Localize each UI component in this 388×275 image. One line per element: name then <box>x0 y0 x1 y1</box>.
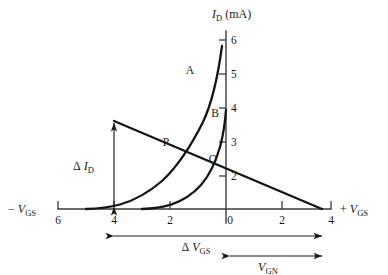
x-tick-labels: 6 4 2 0 2 4 <box>55 214 334 226</box>
x-axis-negative-label: −VGS <box>8 202 36 218</box>
x-axis-negative-sign: − <box>8 202 15 216</box>
curves-group <box>86 46 322 209</box>
y-tick-label: 3 <box>231 136 237 148</box>
point-p-label: P <box>163 136 169 148</box>
y-axis-title: ID(mA) <box>211 7 251 23</box>
transfer-characteristic-plot: ID(mA) 6 5 4 3 2 6 4 2 0 2 4 −VGS +VGS A… <box>0 0 388 275</box>
y-axis-units: (mA) <box>225 7 251 21</box>
annotation-arrows <box>114 123 322 256</box>
x-tick-label: 2 <box>279 214 285 226</box>
y-tick-label: 4 <box>231 102 237 114</box>
x-axis-subscript: GS <box>357 208 368 218</box>
delta-symbol: Δ <box>73 159 81 173</box>
y-axis-subscript: D <box>216 13 222 23</box>
x-tick-label: 2 <box>167 214 173 226</box>
x-tick-label: 6 <box>55 214 61 226</box>
delta-vgs-subscript: GS <box>200 246 211 256</box>
y-tick-labels: 6 5 4 3 2 <box>231 34 237 182</box>
x-axis-subscript: GS <box>25 208 36 218</box>
x-tick-label: 0 <box>227 214 233 226</box>
delta-id-subscript: D <box>88 165 94 175</box>
figure-canvas: ID(mA) 6 5 4 3 2 6 4 2 0 2 4 −VGS +VGS A… <box>0 0 388 275</box>
vgn-subscript: GN <box>265 266 278 275</box>
axes-group <box>58 31 331 223</box>
y-tick-label: 6 <box>231 34 237 46</box>
y-tick-label: 5 <box>231 68 237 80</box>
curve-b-label: B <box>211 107 219 119</box>
y-tick-label: 2 <box>231 170 237 182</box>
x-tick-label: 4 <box>111 214 117 226</box>
x-tick-label: 4 <box>328 214 334 226</box>
vgn-label: VGN <box>258 260 279 275</box>
delta-vgs-label: ΔVGS <box>181 240 210 256</box>
delta-id-label: ΔID <box>73 159 94 175</box>
point-q-label: Q <box>209 153 218 165</box>
curve-a-label: A <box>186 64 195 76</box>
load-line-path <box>114 121 322 209</box>
delta-symbol: Δ <box>181 240 189 254</box>
x-axis-positive-label: +VGS <box>340 202 368 218</box>
x-axis-positive-sign: + <box>340 202 347 216</box>
